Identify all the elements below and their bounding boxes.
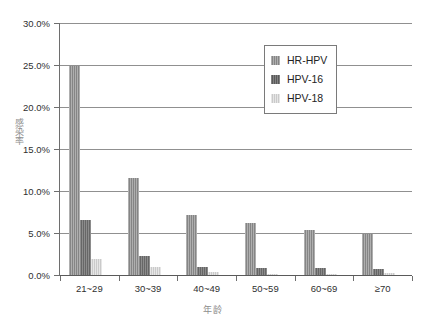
bar-group: [69, 23, 102, 275]
plot-area: [60, 23, 412, 275]
x-axis-tick-mark: [236, 276, 237, 281]
y-axis-tick-mark: [54, 107, 60, 108]
bar-group: [128, 23, 161, 275]
legend-item[interactable]: HPV-18: [271, 89, 327, 108]
y-axis-tick-label: 20.0%: [23, 102, 50, 113]
bar: [256, 268, 267, 275]
y-axis-tick-mark: [54, 149, 60, 150]
legend-label: HPV-16: [287, 74, 323, 85]
bar: [373, 269, 384, 275]
bar: [326, 274, 337, 275]
x-axis-tick-mark: [177, 276, 178, 281]
x-axis-tick-label: ≥70: [375, 283, 391, 294]
bar-chart: 感染率 0.0%5.0%10.0%15.0%20.0%25.0%30.0% 21…: [0, 0, 425, 328]
y-axis-tick-label: 10.0%: [23, 186, 50, 197]
bar-group: [362, 23, 395, 275]
bar-group: [186, 23, 219, 275]
x-axis-tick-label: 60~69: [311, 283, 338, 294]
gridline: [60, 107, 412, 108]
y-axis-tick-mark: [54, 233, 60, 234]
bar: [80, 220, 91, 275]
y-axis-tick-mark: [54, 65, 60, 66]
legend-item[interactable]: HPV-16: [271, 70, 327, 89]
y-axis-tick-mark: [54, 23, 60, 24]
x-axis-tick-marks: [60, 276, 412, 282]
y-axis-tick-mark: [54, 191, 60, 192]
chart-legend: HR-HPVHPV-16HPV-18: [264, 45, 337, 114]
bar: [315, 268, 326, 275]
gridline: [60, 191, 412, 192]
y-axis-tick-mark: [54, 275, 60, 276]
y-axis-tick-label: 0.0%: [28, 270, 50, 281]
legend-label: HR-HPV: [287, 55, 327, 66]
bar: [267, 274, 278, 275]
bar: [91, 259, 102, 275]
bar: [304, 230, 315, 275]
gridline: [60, 65, 412, 66]
x-axis-tick-label: 30~39: [135, 283, 162, 294]
y-axis-tick-label: 5.0%: [28, 228, 50, 239]
bar: [69, 66, 80, 275]
x-axis-tick-mark: [60, 276, 61, 281]
x-axis-tick-mark: [119, 276, 120, 281]
bar: [208, 272, 219, 275]
bar: [128, 178, 139, 275]
bar: [197, 267, 208, 275]
gridline: [60, 23, 412, 24]
legend-swatch-icon: [271, 94, 280, 103]
y-axis-tick-label: 25.0%: [23, 60, 50, 71]
x-axis-tick-mark: [295, 276, 296, 281]
y-axis-tick-labels: 0.0%5.0%10.0%15.0%20.0%25.0%30.0%: [0, 0, 58, 328]
bar: [362, 234, 373, 275]
x-axis-tick-label: 40~49: [193, 283, 220, 294]
x-axis-tick-labels: 21~2930~3940~4950~5960~69≥70: [60, 283, 412, 299]
bar: [139, 256, 150, 275]
gridline: [60, 233, 412, 234]
bar: [245, 223, 256, 275]
x-axis-tick-mark: [353, 276, 354, 281]
legend-item[interactable]: HR-HPV: [271, 51, 327, 70]
y-axis-tick-label: 15.0%: [23, 144, 50, 155]
gridline: [60, 149, 412, 150]
bar: [186, 215, 197, 275]
bar: [384, 273, 395, 275]
bar: [150, 267, 161, 275]
x-axis-title: 年龄: [0, 303, 425, 316]
legend-swatch-icon: [271, 56, 280, 65]
legend-label: HPV-18: [287, 93, 323, 104]
y-axis-tick-label: 30.0%: [23, 18, 50, 29]
legend-swatch-icon: [271, 75, 280, 84]
x-axis-tick-label: 21~29: [76, 283, 103, 294]
x-axis-tick-label: 50~59: [252, 283, 279, 294]
x-axis-tick-mark: [412, 276, 413, 281]
